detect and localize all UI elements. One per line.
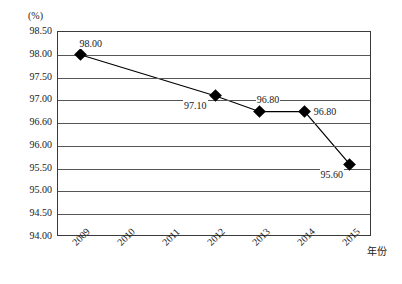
y-axis-tick-label: 98.00 — [30, 48, 53, 59]
gridline — [58, 123, 370, 124]
y-axis-tick-label: 97.00 — [30, 93, 53, 104]
series-line — [58, 32, 372, 237]
y-axis-tick-label: 94.50 — [30, 207, 53, 218]
y-axis-tick-label: 96.60 — [30, 116, 53, 127]
y-axis-tick-label: 97.50 — [30, 71, 53, 82]
gridline — [58, 55, 370, 56]
data-point-label: 96.80 — [313, 106, 338, 117]
plot-area: 98.0097.1096.8096.8095.60 — [57, 31, 371, 236]
x-axis-title: 年份 — [367, 246, 387, 257]
data-point-label: 98.00 — [78, 38, 103, 49]
data-point-label: 97.10 — [183, 100, 208, 111]
y-axis-tick-label: 95.00 — [30, 184, 53, 195]
y-axis-tick-label: 98.50 — [30, 25, 53, 36]
y-axis-unit-label: (%) — [28, 10, 43, 22]
gridline — [58, 191, 370, 192]
chart-page: (%) 98.5098.0097.5097.0096.6096.0095.509… — [0, 0, 402, 284]
y-axis-tick-labels: 98.5098.0097.5097.0096.6096.0095.5095.00… — [9, 31, 55, 236]
data-point-label: 96.80 — [256, 94, 281, 105]
gridline — [58, 214, 370, 215]
y-axis-tick-label: 95.50 — [30, 162, 53, 173]
y-axis-tick-label: 96.00 — [30, 139, 53, 150]
gridline — [58, 78, 370, 79]
y-axis-tick-label: 94.00 — [30, 230, 53, 241]
gridline — [58, 146, 370, 147]
data-point-label: 95.60 — [320, 169, 345, 180]
